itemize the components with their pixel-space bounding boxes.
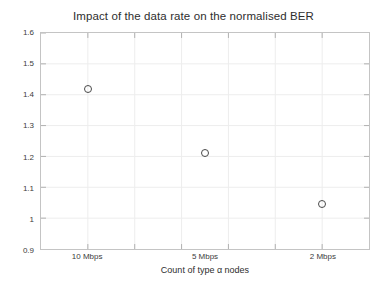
data-point-marker (84, 85, 92, 93)
y-tick-label: 1 (30, 214, 34, 223)
x-tick-label: 5 Mbps (192, 252, 218, 261)
y-tick-label: 1.6 (23, 28, 34, 37)
x-axis-tick-labels: 10 Mbps 5 Mbps 2 Mbps (40, 252, 370, 266)
y-tick-label: 1.3 (23, 121, 34, 130)
data-series-layer (41, 33, 369, 249)
data-point-marker (201, 149, 209, 157)
x-tick-label: 2 Mbps (310, 252, 336, 261)
y-tick-label: 1.5 (23, 59, 34, 68)
chart-figure: Impact of the data rate on the normalise… (0, 0, 387, 286)
y-tick-label: 0.9 (23, 246, 34, 255)
y-tick-label: 1.4 (23, 90, 34, 99)
plot-area (40, 32, 370, 250)
chart-title: Impact of the data rate on the normalise… (0, 10, 387, 22)
y-axis-tick-labels: 1.6 1.5 1.4 1.3 1.2 1.1 1 0.9 (0, 32, 34, 250)
y-tick-label: 1.2 (23, 152, 34, 161)
x-axis-title: Count of type α nodes (40, 265, 370, 275)
data-point-marker (318, 200, 326, 208)
y-tick-label: 1.1 (23, 183, 34, 192)
x-tick-label: 10 Mbps (72, 252, 103, 261)
